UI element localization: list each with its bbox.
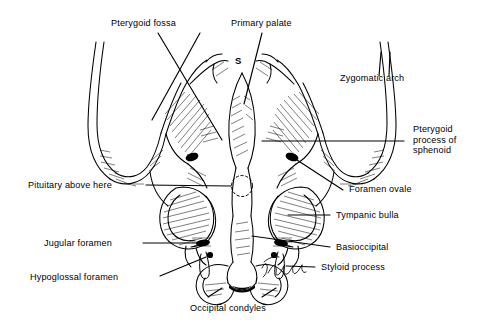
leader-primary-palate [244,33,262,104]
label-hypoglossal-foramen: Hypoglossal foramen [30,272,118,283]
label-jugular-foramen: Jugular foramen [44,238,112,249]
leader-pituitary [146,185,231,186]
label-pterygoid-fossa: Pterygoid fossa [111,18,176,29]
foramen-ovale-left [184,151,199,163]
foramen-ovale-right [284,151,299,163]
label-occipital-condyles: Occipital condyles [190,303,266,314]
label-pterygoid-process-line1: Pterygoid [413,124,456,135]
leader-occipital-condyles-a [208,288,222,297]
label-pterygoid-process-line3: sphenoid [413,145,456,156]
label-tympanic-bulla: Tympanic bulla [336,210,399,221]
label-styloid-process: Styloid process [321,262,385,273]
midline-marker-s: S [235,56,242,67]
label-pituitary: Pituitary above here [28,180,112,191]
label-zygomatic-arch: Zygomatic arch [340,73,404,84]
leader-hypoglossal-foramen [160,257,206,276]
label-pterygoid-process: Pterygoid process of sphenoid [413,124,456,156]
label-basioccipital: Basioccipital [336,242,389,253]
label-foramen-ovale: Foramen ovale [349,184,412,195]
skull-midline-structures [227,73,257,290]
rostral-fragments [190,54,294,84]
label-pterygoid-process-line2: process of [413,135,456,146]
leader-pterygoid-fossa-a [158,33,222,140]
anatomical-figure: S Pterygoid fossa Primary palate Zygomat… [0,0,484,331]
hypoglossal-foramen-left [207,252,213,258]
label-primary-palate: Primary palate [231,18,292,29]
